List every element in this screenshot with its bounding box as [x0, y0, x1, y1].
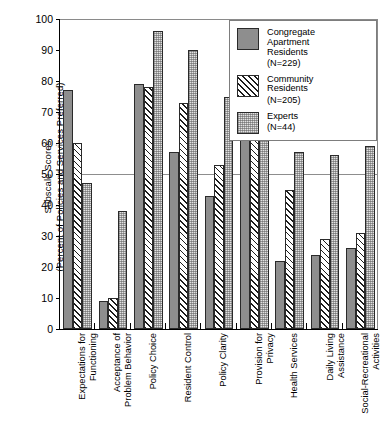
y-tick-label-50: 50	[41, 168, 53, 180]
x-axis-label-line: Acceptance of	[112, 333, 123, 407]
legend-label-n: (N=205)	[267, 96, 313, 106]
bar	[294, 152, 304, 329]
y-tick-label-0: 0	[47, 323, 53, 335]
bar-group	[95, 19, 130, 329]
x-axis-label-cell: Daily LivingAssistance	[307, 333, 342, 433]
x-axis-label: Resident Control	[183, 333, 194, 402]
legend-label-line-1: Experts	[267, 112, 298, 122]
x-axis-label-line: Resident Control	[183, 333, 194, 402]
bar	[179, 103, 189, 329]
bar-group	[60, 19, 95, 329]
x-axis-label-cell: Provision forPrivacy	[236, 333, 271, 433]
x-axis-label: Health Services	[289, 333, 300, 398]
bar	[356, 233, 366, 329]
x-axis-label-cell: Expectations forFunctioning	[59, 333, 94, 433]
legend-label-congregate-apartment-residents: Congregate Apartment Residents (N=229)	[267, 28, 315, 69]
x-axis-label-cell: Social-RecreationalActivities	[343, 333, 378, 433]
x-axis-label-line: Provision for	[254, 333, 265, 385]
bar	[346, 248, 356, 329]
bar	[214, 165, 224, 329]
legend-item-community-residents: Community Residents (N=205)	[237, 75, 370, 106]
x-axis-label-line: Policy Clarity	[218, 333, 229, 387]
bar	[205, 196, 215, 329]
legend-label-n: (N=44)	[267, 123, 298, 133]
legend-item-experts: Experts (N=44)	[237, 112, 370, 134]
y-tick-label-100: 100	[35, 13, 53, 25]
bar	[285, 190, 295, 330]
y-tick-label-70: 70	[41, 106, 53, 118]
y-tick-label-30: 30	[41, 230, 53, 242]
legend-swatch-experts	[237, 112, 259, 134]
x-axis-label-line: Policy Choice	[148, 333, 159, 389]
x-axis-label-cell: Resident Control	[165, 333, 200, 433]
legend-swatch-community-residents	[237, 75, 259, 97]
y-tick-label-80: 80	[41, 75, 53, 87]
legend-label-line-2: Residents	[267, 84, 313, 94]
y-tick-label-40: 40	[41, 199, 53, 211]
bar	[134, 84, 144, 329]
legend-label-n: (N=229)	[267, 59, 315, 69]
bar	[169, 152, 179, 329]
bar	[250, 115, 260, 329]
bar	[330, 155, 340, 329]
bar	[188, 50, 198, 329]
x-axis-label: Social-RecreationalActivities	[360, 333, 381, 414]
legend-label-line-3: Residents	[267, 48, 315, 58]
x-axis-label-line: Activities	[371, 333, 382, 414]
y-tick-0	[56, 329, 60, 330]
chart-legend: Congregate Apartment Residents (N=229) C…	[229, 20, 377, 141]
y-tick-label-20: 20	[41, 261, 53, 273]
bar	[108, 298, 118, 329]
x-axis-label-cell: Health Services	[272, 333, 307, 433]
legend-swatch-congregate-apartment-residents	[237, 28, 259, 50]
legend-label-community-residents: Community Residents (N=205)	[267, 75, 313, 106]
bar	[311, 255, 321, 329]
bar-group	[131, 19, 166, 329]
x-axis-label-line: Health Services	[289, 333, 300, 398]
y-tick-label-10: 10	[41, 292, 53, 304]
x-axis-label-cell: Policy Choice	[130, 333, 165, 433]
x-axis-label-line: Daily Living	[325, 333, 336, 381]
bar	[320, 239, 330, 329]
bar	[275, 261, 285, 329]
x-axis-label: Policy Clarity	[218, 333, 229, 387]
bar	[82, 183, 92, 329]
bar-group	[166, 19, 201, 329]
bar	[73, 143, 83, 329]
bar	[63, 90, 73, 329]
bar	[118, 211, 128, 329]
x-axis-label-cell: Policy Clarity	[201, 333, 236, 433]
y-tick-label-90: 90	[41, 44, 53, 56]
x-axis-label-line: Social-Recreational	[360, 333, 371, 414]
x-axis-label-line: Expectations for	[77, 333, 88, 400]
legend-item-congregate-apartment-residents: Congregate Apartment Residents (N=229)	[237, 28, 370, 69]
x-axis-labels: Expectations forFunctioningAcceptance of…	[59, 333, 378, 433]
bar	[99, 301, 109, 329]
bar	[153, 31, 163, 329]
x-axis-label-cell: Acceptance ofProblem Behavior	[94, 333, 129, 433]
y-tick-label-60: 60	[41, 137, 53, 149]
bar	[144, 87, 154, 329]
legend-label-experts: Experts (N=44)	[267, 112, 298, 133]
chart-figure: Subscale Scores (Percent of Policies and…	[0, 0, 389, 433]
x-axis-label: Policy Choice	[148, 333, 159, 389]
bar	[365, 146, 375, 329]
